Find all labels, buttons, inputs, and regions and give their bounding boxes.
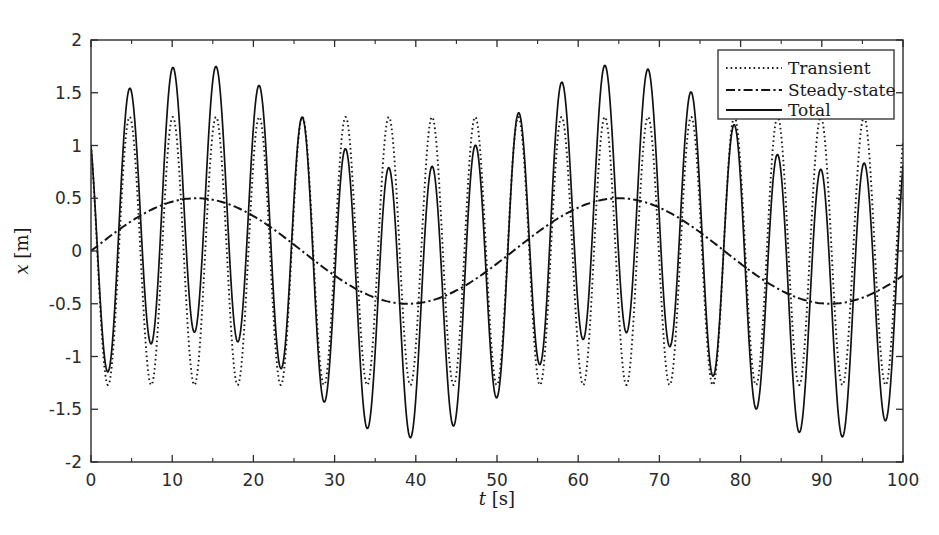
x-tick-label: 30 <box>324 470 346 490</box>
y-tick-label: -1 <box>65 347 82 367</box>
x-tick-label: 0 <box>86 470 97 490</box>
line-chart: 0102030405060708090100-2-1.5-1-0.500.511… <box>0 0 939 535</box>
y-tick-label: 1.5 <box>55 83 82 103</box>
x-tick-label: 10 <box>161 470 183 490</box>
x-axis-label: t [s] <box>479 488 515 509</box>
y-tick-label: -1.5 <box>49 399 82 419</box>
legend-label-steady-state: Steady-state <box>788 80 896 100</box>
y-axis-label-symbol: x <box>11 264 32 274</box>
x-tick-label: 60 <box>567 470 589 490</box>
y-axis-label: x [m] <box>11 227 32 274</box>
y-tick-label: 1 <box>71 136 82 156</box>
x-tick-label: 90 <box>811 470 833 490</box>
svg-text:t [s]: t [s] <box>479 488 515 509</box>
x-tick-label: 100 <box>887 470 919 490</box>
legend-label-transient: Transient <box>788 58 871 78</box>
y-tick-label: 2 <box>71 30 82 50</box>
y-tick-label: -2 <box>65 452 82 472</box>
x-tick-label: 50 <box>486 470 508 490</box>
legend-label-total: Total <box>788 100 831 120</box>
x-tick-label: 80 <box>730 470 752 490</box>
legend: Transient Steady-state Total <box>718 50 896 120</box>
x-tick-label: 40 <box>405 470 427 490</box>
x-tick-label: 20 <box>243 470 265 490</box>
chart-figure: 0102030405060708090100-2-1.5-1-0.500.511… <box>0 0 939 535</box>
x-axis-label-unit: [s] <box>492 488 515 509</box>
y-tick-label: -0.5 <box>49 294 82 314</box>
y-axis-label-unit: [m] <box>11 227 32 258</box>
x-tick-label: 70 <box>649 470 671 490</box>
y-tick-label: 0 <box>71 241 82 261</box>
y-tick-label: 0.5 <box>55 188 82 208</box>
svg-text:x [m]: x [m] <box>11 227 32 274</box>
